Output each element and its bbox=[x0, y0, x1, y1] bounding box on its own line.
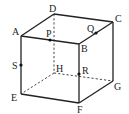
label-c: C bbox=[115, 13, 122, 24]
label-a: A bbox=[12, 26, 20, 37]
edge-fg bbox=[79, 81, 113, 103]
point-q-dot bbox=[94, 31, 97, 34]
label-f: F bbox=[77, 104, 83, 114]
label-b: B bbox=[81, 43, 88, 54]
point-r-dot bbox=[77, 72, 80, 75]
label-d: D bbox=[49, 3, 56, 14]
label-h: H bbox=[56, 63, 63, 74]
label-p: P bbox=[46, 28, 52, 39]
edge-ef bbox=[21, 94, 79, 103]
label-g: G bbox=[114, 81, 121, 92]
label-s: S bbox=[12, 60, 18, 71]
label-r: R bbox=[82, 65, 89, 76]
vertex-labels: ABCDEFGHPQRS bbox=[11, 3, 122, 114]
edge-cd bbox=[54, 14, 113, 22]
label-e: E bbox=[11, 92, 17, 103]
cube-diagram: ABCDEFGHPQRS bbox=[0, 0, 129, 114]
hidden-edge-he bbox=[21, 73, 54, 94]
label-q: Q bbox=[87, 23, 95, 34]
hidden-edges bbox=[21, 14, 113, 94]
point-s-dot bbox=[19, 63, 22, 66]
visible-edges bbox=[21, 14, 113, 103]
